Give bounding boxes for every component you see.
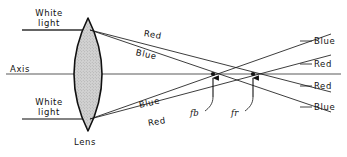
- refracted-blue-from-top: [90, 30, 331, 112]
- output-blue-lower-label: Blue: [314, 102, 335, 112]
- focal-red-label: fr: [231, 108, 239, 118]
- focus-red-leader: [245, 97, 253, 111]
- focus-blue-leader: [205, 97, 213, 111]
- output-red-upper-label: Red: [314, 59, 332, 69]
- focal-point-red-dot: [251, 72, 255, 76]
- axis-label: Axis: [10, 64, 30, 74]
- white-light-top-line1: White: [24, 8, 74, 18]
- chromatic-aberration-figure: White light White light Axis Lens Red Bl…: [0, 0, 347, 157]
- output-blue-upper-label: Blue: [314, 36, 335, 46]
- white-light-top-line2: light: [24, 18, 74, 28]
- white-light-top-label: White light: [24, 8, 74, 28]
- white-light-bottom-line2: light: [24, 107, 74, 117]
- refracted-red-from-bottom: [90, 55, 331, 119]
- white-light-bottom-line1: White: [24, 97, 74, 107]
- refracted-blue-from-bottom: [90, 34, 331, 119]
- lens-label: Lens: [74, 137, 96, 147]
- white-light-bottom-label: White light: [24, 97, 74, 117]
- output-red-lower-label: Red: [314, 81, 332, 91]
- focal-point-blue-dot: [211, 72, 215, 76]
- focal-blue-label: fb: [190, 108, 199, 118]
- refracted-red-from-top: [90, 30, 331, 92]
- lens-shape: [74, 18, 102, 131]
